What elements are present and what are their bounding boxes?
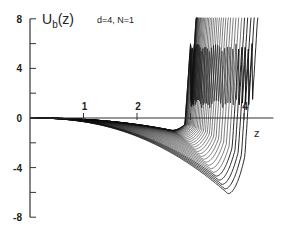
potential-curve xyxy=(30,18,198,131)
potential-curve xyxy=(30,18,196,131)
potential-curve xyxy=(30,18,198,131)
x-axis-label: z xyxy=(254,127,260,139)
potential-curve xyxy=(30,18,210,139)
x-tick-label: 2 xyxy=(135,101,141,112)
potential-curve xyxy=(30,18,201,133)
potential-curve xyxy=(30,18,197,131)
potential-curve xyxy=(30,18,196,131)
potential-curve xyxy=(30,18,200,132)
potential-curve xyxy=(30,18,209,138)
x-tick-label: 4 xyxy=(242,101,248,112)
y-tick-label: -8 xyxy=(13,212,22,223)
y-tick-label: 4 xyxy=(16,63,22,74)
potential-curve xyxy=(30,18,245,177)
curve-family xyxy=(30,18,258,194)
x-tick-label: 1 xyxy=(82,101,88,112)
potential-curve xyxy=(30,18,203,134)
potential-curve xyxy=(30,18,248,181)
potential-curve xyxy=(30,18,199,132)
y-axis-label: Ub(z) xyxy=(42,11,74,30)
y-tick-label: -4 xyxy=(13,163,22,174)
potential-curve xyxy=(30,18,212,141)
chart: 840-4-8124 Ub(z) d=4, N=1 z xyxy=(0,0,282,231)
potential-curve xyxy=(30,18,204,134)
potential-curve xyxy=(30,18,205,135)
y-tick-label: 8 xyxy=(16,14,22,25)
potential-curve xyxy=(30,18,196,131)
annotation-text: d=4, N=1 xyxy=(97,15,134,25)
potential-curve xyxy=(30,18,198,131)
potential-curve xyxy=(30,18,236,166)
potential-curve xyxy=(30,18,196,131)
potential-curve xyxy=(30,18,202,133)
y-tick-label: 0 xyxy=(16,113,22,124)
potential-curve xyxy=(30,18,200,132)
potential-curve xyxy=(30,18,197,131)
